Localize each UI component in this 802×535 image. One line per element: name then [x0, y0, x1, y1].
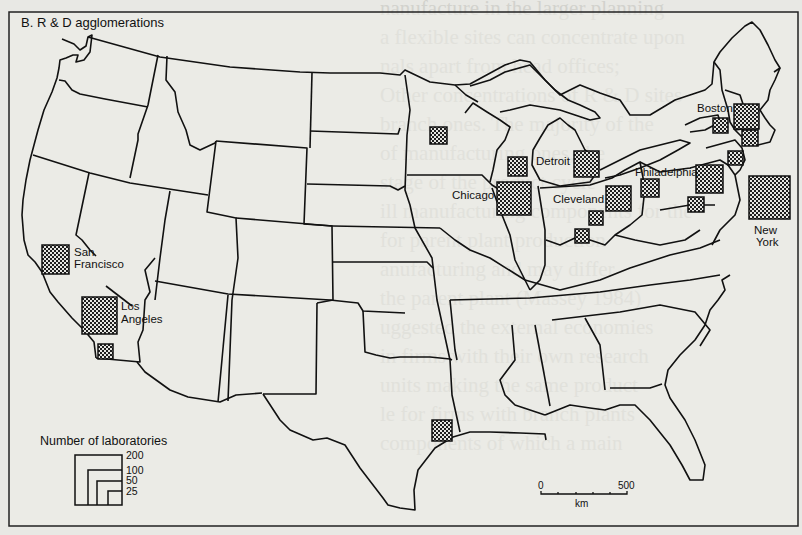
- symbol-minneapolis: [430, 127, 447, 144]
- figure-title: B. R & D agglomerations: [21, 15, 165, 30]
- symbol-milwaukee: [508, 157, 527, 176]
- label-boston: Boston: [697, 102, 733, 114]
- symbol-boston: [734, 104, 759, 129]
- label-cleveland: Cleveland: [553, 193, 604, 205]
- symbol-baltimore: [688, 197, 704, 212]
- label-new-york-2: York: [756, 236, 779, 248]
- map-figure: B. R & D agglomerations: [0, 0, 802, 535]
- symbol-new-haven: [728, 151, 743, 165]
- symbol-houston: [432, 420, 452, 441]
- symbol-columbus: [589, 211, 603, 225]
- symbol-pittsburgh: [641, 179, 659, 197]
- symbol-cincinnati: [575, 229, 589, 243]
- label-los-angeles-2: Angeles: [121, 313, 163, 325]
- symbol-los-angeles: [82, 297, 117, 334]
- label-san-francisco-2: Francisco: [74, 258, 124, 270]
- label-new-york-1: New: [754, 224, 778, 236]
- label-san-francisco-1: San: [74, 246, 94, 258]
- symbol-san-francisco: [42, 245, 69, 274]
- legend-title: Number of laboratories: [40, 434, 167, 448]
- symbol-philadelphia: [696, 165, 723, 193]
- label-detroit: Detroit: [536, 155, 571, 167]
- symbol-albany: [713, 118, 728, 133]
- legend-label-200: 200: [126, 449, 144, 461]
- symbol-chicago: [497, 182, 531, 215]
- symbol-san-diego: [98, 344, 113, 359]
- symbol-detroit: [574, 151, 599, 177]
- label-chicago: Chicago: [452, 189, 494, 201]
- symbol-new-york: [749, 176, 790, 219]
- label-philadelphia: Philadelphia: [635, 166, 698, 178]
- scale-unit-label: km: [575, 498, 588, 509]
- symbol-cleveland: [606, 186, 631, 211]
- label-los-angeles-1: Los: [121, 300, 140, 312]
- symbol-providence: [742, 130, 758, 146]
- scale-end-label: 500: [618, 480, 635, 491]
- legend-label-25: 25: [126, 485, 138, 497]
- scale-start-label: 0: [538, 480, 544, 491]
